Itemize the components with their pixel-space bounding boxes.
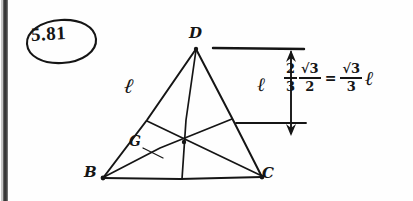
fraction-numerator: √3	[340, 62, 362, 76]
centroid-point	[182, 140, 186, 144]
fraction-root3-over-3: √3 3	[340, 62, 362, 93]
fraction-denominator: 3	[345, 80, 358, 94]
vertex-d-point	[194, 47, 198, 51]
equals-sign: =	[325, 70, 337, 86]
problem-number: 5.81	[31, 23, 67, 44]
fraction-numerator: 2	[284, 62, 297, 76]
fraction-two-thirds: 2 3	[284, 62, 297, 93]
fraction-root3-over-2: √3 2	[299, 62, 321, 93]
scanned-page: 5.81 D B C G ℓ ℓ 2 3 √3 2 = √3 3 ℓ	[0, 0, 413, 201]
centroid-label-g: G	[129, 134, 141, 148]
vertex-label-b: B	[84, 165, 97, 180]
fraction-numerator: √3	[299, 62, 321, 76]
result-length-symbol: ℓ	[365, 66, 374, 90]
g-leader-line	[143, 148, 163, 158]
equation: 2 3 √3 2 = √3 3 ℓ	[283, 62, 374, 93]
vertex-label-c: C	[262, 166, 274, 181]
dimension-length-label: ℓ	[257, 75, 265, 94]
fraction-denominator: 3	[284, 80, 297, 94]
vertex-b-point	[101, 176, 106, 181]
vertex-label-d: D	[189, 26, 202, 41]
fraction-denominator: 2	[303, 80, 316, 94]
